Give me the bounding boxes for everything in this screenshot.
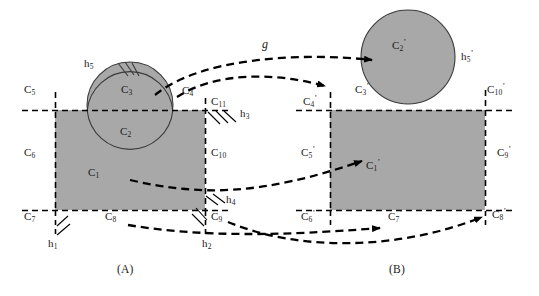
cell-label-C1: C1 — [88, 167, 100, 178]
cell-label-C9-prime: C9' — [497, 147, 510, 158]
cell-label-C11: C11 — [211, 96, 226, 107]
wall-label-h4: h4 — [226, 194, 236, 205]
cell-label-C3: C3 — [121, 84, 133, 95]
wall-label-h2: h2 — [202, 238, 212, 249]
wall-label-h1: h1 — [48, 238, 58, 249]
figure-canvas: C1 C2 C3 C4 C5 C6 C7 C8 C9 C10 C11 h1 h2… — [0, 0, 539, 296]
arrow-c8-to-c7prime — [128, 225, 380, 234]
hatch-h1 — [57, 216, 70, 235]
cell-label-C2-prime: C2' — [392, 40, 405, 51]
hatch-h4 — [206, 194, 225, 205]
diagram-svg — [0, 0, 539, 296]
cell-label-C5-prime: C5' — [301, 147, 314, 158]
hatch-h3 — [208, 111, 236, 124]
panel-caption-a: (A) — [117, 264, 134, 276]
wall-label-h3: h3 — [240, 108, 250, 119]
cell-label-C4: C4 — [182, 85, 194, 96]
cell-label-C1-prime: C1' — [366, 160, 379, 171]
mapping-label-g: g — [262, 38, 268, 50]
cell-label-C10: C10 — [211, 147, 226, 158]
cell-label-C7-prime: C7' — [388, 211, 401, 222]
cell-label-C10-prime: C10' — [487, 84, 504, 95]
region-b-body — [330, 110, 485, 210]
cell-label-C6-prime: C6' — [301, 211, 314, 222]
wall-label-h5-prime: h5' — [461, 51, 472, 62]
cell-label-C6: C6 — [24, 147, 36, 158]
panel-caption-b: (B) — [389, 264, 405, 276]
wall-label-h5: h5 — [84, 58, 94, 69]
cell-label-C2: C2 — [120, 126, 132, 137]
arrow-c4-to-c3prime — [177, 77, 325, 97]
cell-label-C7: C7 — [24, 211, 36, 222]
cell-label-C8-prime: C8' — [492, 209, 505, 220]
cell-label-C4-prime: C4' — [303, 96, 316, 107]
region-b-circle — [361, 10, 455, 104]
cell-label-C3-prime: C3' — [355, 84, 368, 95]
cell-label-C8: C8 — [105, 211, 117, 222]
cell-label-C5: C5 — [24, 84, 36, 95]
cell-label-C9: C9 — [211, 211, 223, 222]
